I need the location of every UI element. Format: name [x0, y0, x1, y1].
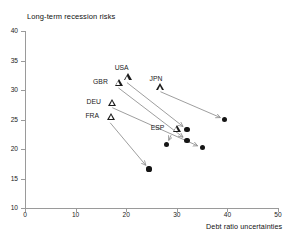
start-marker-fra: [107, 113, 115, 120]
start-marker-gbr: [115, 79, 123, 86]
scatter-chart: Long-term recession risks 10152025303540…: [0, 0, 299, 238]
point-label-esp: ESP: [151, 124, 165, 131]
start-marker-jpn: [157, 83, 165, 90]
transition-arrow-esp: [169, 135, 171, 140]
end-marker-gbr: [184, 138, 189, 143]
transition-arrow-usa: [127, 83, 183, 127]
transition-arrow-jpn: [160, 92, 220, 118]
start-marker-usa: [124, 73, 132, 80]
transition-arrow-fra: [110, 123, 146, 165]
point-label-jpn: JPN: [150, 75, 163, 82]
x-axis-title: Debt ratio uncertainties: [206, 222, 282, 231]
point-label-deu: DEU: [86, 98, 100, 105]
start-marker-deu: [108, 99, 116, 106]
end-marker-fra: [146, 166, 151, 171]
point-label-gbr: GBR: [93, 78, 108, 85]
end-marker-usa: [184, 127, 189, 132]
arrow-layer: [0, 0, 299, 238]
start-marker-esp: [173, 125, 181, 132]
point-label-usa: USA: [115, 64, 129, 71]
point-label-fra: FRA: [85, 112, 99, 119]
